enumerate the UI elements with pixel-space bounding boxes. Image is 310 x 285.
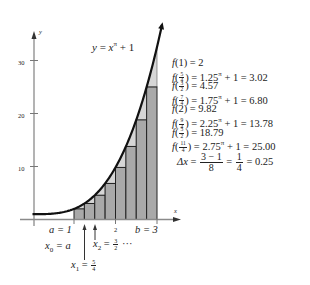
x2-den: 2: [113, 245, 118, 251]
x2-num: 3: [113, 238, 118, 245]
equation-row: f(74) = 1.75π + 1 = 6.80: [172, 92, 276, 104]
x-label-a: a = 1: [49, 224, 72, 235]
function-values-list: f(1) = 2 f(54) = 1.25π + 1 = 3.02 f(32) …: [172, 57, 276, 173]
rest: + 1 = 3.02: [224, 71, 267, 82]
fn: f: [172, 80, 175, 91]
riemann-bar: [116, 167, 126, 219]
exp: π: [218, 93, 222, 101]
x2-rest: ···: [122, 238, 133, 249]
riemann-bar: [84, 203, 94, 219]
x0-rest: = a: [56, 240, 71, 251]
rest: + 1 = 25.00: [227, 141, 276, 152]
eq: =: [226, 156, 232, 167]
x2-pointer-arrow-icon: [93, 224, 97, 230]
rhs: = 4.57: [191, 80, 218, 91]
arg: (2): [175, 103, 187, 114]
y-tick-label-10: 10: [18, 165, 25, 172]
delta-fraction-1: 3 − 18: [200, 152, 223, 173]
x-axis-label: x: [174, 207, 177, 214]
eq: =: [190, 156, 196, 167]
x0-annotation: x0 = a: [45, 240, 71, 254]
equation-row: f(94) = 2.25π + 1 = 13.78: [172, 115, 276, 127]
riemann-bar: [74, 209, 84, 220]
den: 4: [236, 163, 243, 173]
fn: f: [172, 141, 175, 152]
x-axis-arrow-icon: [173, 217, 181, 222]
x1-eq: =: [82, 259, 88, 270]
equation-row: f(114) = 2.75π + 1 = 25.00: [172, 138, 276, 150]
delta-x-row: Δx = 3 − 18 = 14 = 0.25: [172, 152, 276, 173]
x2-sub: 2: [98, 244, 102, 252]
x-label-b: b = 3: [135, 224, 158, 235]
x1-den: 4: [91, 266, 96, 272]
x1-num: 5: [91, 259, 96, 266]
exp: π: [218, 70, 222, 78]
x-label-2: 2: [114, 226, 117, 233]
riemann-bar: [147, 87, 157, 220]
y-axis-arrow-icon: [32, 31, 37, 39]
exp: π: [221, 139, 225, 147]
x2-eq: =: [104, 238, 110, 249]
arg-fraction: 32: [179, 81, 184, 93]
x1-annotation: x1 = 54: [71, 259, 97, 273]
x2-fraction: 32: [113, 238, 118, 251]
riemann-bar: [136, 120, 146, 220]
rhs: = 9.82: [190, 103, 217, 114]
function-title: y = xπ + 1: [92, 40, 134, 53]
riemann-bar: [95, 195, 105, 219]
arg: (1): [175, 57, 187, 68]
riemann-bar: [126, 146, 136, 219]
rhs: = 2: [190, 57, 204, 68]
x1-fraction: 54: [91, 259, 96, 272]
den: 8: [200, 163, 223, 173]
x0-sub: 0: [50, 246, 54, 254]
curve-arrow-icon: [158, 22, 164, 29]
equation-row: f(1) = 2: [172, 57, 276, 69]
title-rhs: + 1: [120, 41, 134, 53]
delta-fraction-2: 14: [236, 152, 243, 173]
result: = 0.25: [246, 156, 273, 167]
rest: + 1 = 13.78: [224, 117, 273, 128]
riemann-bar: [105, 183, 115, 219]
rest: + 1 = 6.80: [224, 94, 267, 105]
delta-x: Δx: [177, 156, 188, 167]
y-tick-label-30: 30: [18, 59, 25, 66]
title-eq: =: [100, 41, 106, 53]
rhs: = 18.79: [191, 127, 223, 138]
x1-sub: 1: [76, 265, 80, 273]
y-axis-label: y: [39, 28, 42, 35]
y-tick-label-20: 20: [18, 112, 25, 119]
exp: π: [218, 116, 222, 124]
x2-annotation: x2 = 32 ···: [93, 238, 132, 252]
title-exp: π: [114, 40, 118, 48]
rhs: = 2.75: [194, 141, 221, 152]
x1-pointer-arrow-icon: [83, 224, 87, 230]
title-y: y: [92, 41, 97, 53]
fn: f: [172, 127, 175, 138]
equation-row: f(54) = 1.25π + 1 = 3.02: [172, 69, 276, 81]
